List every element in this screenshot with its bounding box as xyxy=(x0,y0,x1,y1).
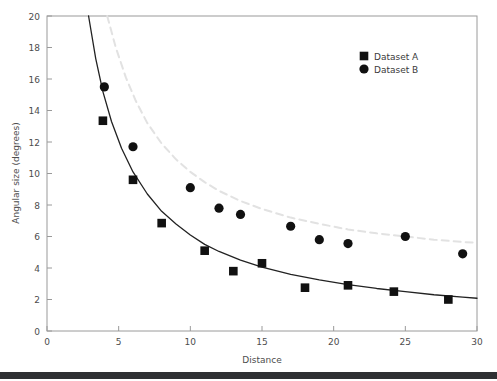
y-tick-label: 2 xyxy=(34,295,40,305)
data-point-circle xyxy=(286,222,295,231)
data-point-circle xyxy=(100,82,109,91)
data-point-square xyxy=(390,287,399,296)
y-tick-label: 6 xyxy=(34,232,40,242)
x-tick-label: 30 xyxy=(471,337,483,347)
legend-marker-square xyxy=(360,52,369,61)
y-tick-label: 8 xyxy=(34,201,40,211)
figure-background xyxy=(0,0,497,381)
data-point-square xyxy=(200,246,209,255)
y-tick-label: 18 xyxy=(29,43,41,53)
data-point-circle xyxy=(343,239,352,248)
data-point-circle xyxy=(236,210,245,219)
x-axis-title: Distance xyxy=(242,355,282,365)
data-point-square xyxy=(157,219,166,228)
data-point-circle xyxy=(458,249,467,258)
y-tick-label: 20 xyxy=(29,12,41,22)
data-point-square xyxy=(258,259,267,268)
scatter-chart: 051015202530 02468101214161820 Distance … xyxy=(0,0,497,381)
x-tick-label: 10 xyxy=(185,337,197,347)
data-point-square xyxy=(444,295,453,304)
chart-figure: 051015202530 02468101214161820 Distance … xyxy=(0,0,497,381)
y-tick-label: 0 xyxy=(34,327,40,337)
x-tick-label: 15 xyxy=(256,337,267,347)
data-point-square xyxy=(344,281,353,290)
y-axis-title: Angular size (degrees) xyxy=(11,122,21,223)
y-tick-label: 4 xyxy=(34,264,40,274)
data-point-circle xyxy=(315,235,324,244)
data-point-square xyxy=(229,267,238,276)
x-tick-label: 20 xyxy=(328,337,340,347)
x-tick-label: 5 xyxy=(116,337,122,347)
data-point-circle xyxy=(186,183,195,192)
legend-label-2: Dataset B xyxy=(374,65,418,75)
data-point-circle xyxy=(128,142,137,151)
legend-label-1: Dataset A xyxy=(374,52,419,62)
legend-marker-circle xyxy=(359,64,368,73)
data-point-square xyxy=(301,283,310,292)
bottom-border-bar xyxy=(0,372,497,379)
data-point-square xyxy=(99,116,108,125)
y-tick-label: 16 xyxy=(29,75,41,85)
data-point-square xyxy=(129,176,138,185)
y-tick-label: 12 xyxy=(29,138,40,148)
y-tick-label: 14 xyxy=(29,106,41,116)
x-tick-label: 0 xyxy=(44,337,50,347)
x-tick-label: 25 xyxy=(400,337,411,347)
y-tick-label: 10 xyxy=(29,169,41,179)
data-point-circle xyxy=(401,232,410,241)
data-point-circle xyxy=(214,204,223,213)
